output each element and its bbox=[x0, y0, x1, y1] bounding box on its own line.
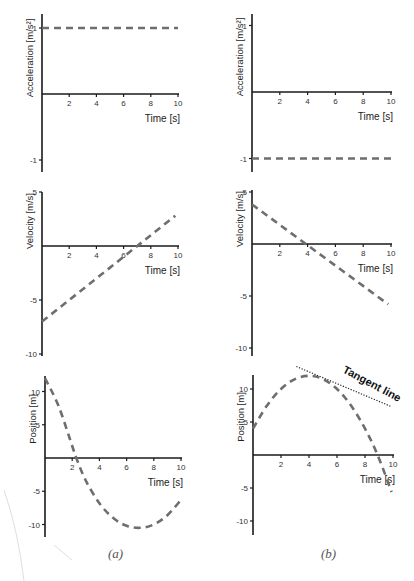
x-tick-label: 8 bbox=[149, 99, 154, 108]
y-axis-label: Acceleration [m/s²] bbox=[24, 19, 35, 98]
x-tick-label: 6 bbox=[124, 463, 129, 472]
x-tick-label: 2 bbox=[279, 460, 284, 469]
x-tick-label: 10 bbox=[389, 460, 398, 469]
x-tick-label: 6 bbox=[335, 460, 340, 469]
x-tick-label: 2 bbox=[70, 463, 75, 472]
y-tick-label: -10 bbox=[28, 521, 40, 530]
x-tick-label: 6 bbox=[121, 99, 126, 108]
x-tick-label: 2 bbox=[278, 249, 283, 258]
x-tick-label: 10 bbox=[174, 251, 183, 260]
x-tick-label: 4 bbox=[94, 99, 99, 108]
data-curve bbox=[252, 204, 388, 304]
plot-acceleration-b: 2468101-1Time [s]Acceleration [m/s²] bbox=[234, 14, 396, 172]
x-axis-label: Time [s] bbox=[145, 265, 180, 276]
x-tick-label: 2 bbox=[67, 251, 72, 260]
y-tick-label: -1 bbox=[240, 155, 248, 164]
tangent-line-label: Tangent line bbox=[341, 363, 403, 404]
y-tick-label: -10 bbox=[235, 344, 247, 353]
x-tick-label: 10 bbox=[387, 249, 396, 258]
x-tick-label: 8 bbox=[363, 460, 368, 469]
x-tick-label: 8 bbox=[152, 463, 157, 472]
x-axis-label: Time [s] bbox=[358, 263, 393, 274]
x-tick-label: 4 bbox=[305, 97, 310, 106]
y-axis-label: Acceleration [m/s²] bbox=[234, 18, 245, 97]
x-tick-label: 4 bbox=[94, 251, 99, 260]
y-axis-label: Velocity [m/s] bbox=[24, 193, 35, 249]
x-axis-label: Time [s] bbox=[360, 474, 395, 485]
scan-artifact bbox=[54, 545, 72, 560]
y-tick-label: -5 bbox=[241, 484, 249, 493]
panel-label-b: (b) bbox=[321, 546, 336, 561]
x-tick-label: 10 bbox=[177, 463, 186, 472]
y-tick-label: -5 bbox=[33, 487, 41, 496]
y-tick-label: -5 bbox=[30, 296, 38, 305]
x-axis-label: Time [s] bbox=[145, 113, 180, 124]
kinematics-figure: 2468101-1Time [s]Acceleration [m/s²]2468… bbox=[0, 0, 414, 581]
data-curve bbox=[45, 378, 181, 528]
scan-artifact bbox=[4, 490, 24, 581]
x-tick-label: 2 bbox=[278, 97, 283, 106]
x-tick-label: 8 bbox=[361, 249, 366, 258]
y-tick-label: -10 bbox=[236, 517, 248, 526]
plot-grid: 2468101-1Time [s]Acceleration [m/s²]2468… bbox=[24, 14, 403, 537]
x-tick-label: 10 bbox=[387, 97, 396, 106]
y-axis-label: Position [m] bbox=[235, 392, 246, 442]
y-tick-label: -10 bbox=[25, 350, 37, 359]
x-tick-label: 2 bbox=[67, 99, 72, 108]
plot-velocity-a: 2468105-5-10Time [s]Velocity [m/s] bbox=[24, 188, 183, 359]
y-tick-label: -5 bbox=[240, 292, 248, 301]
x-axis-label: Time [s] bbox=[148, 477, 183, 488]
y-axis-label: Velocity [m/s] bbox=[234, 191, 245, 247]
panel-label-a: (a) bbox=[108, 546, 123, 561]
x-tick-label: 10 bbox=[174, 99, 183, 108]
y-axis-label: Position [m] bbox=[27, 394, 38, 444]
x-axis-label: Time [s] bbox=[358, 111, 393, 122]
plot-velocity-b: 2468105-5-10Time [s]Velocity [m/s] bbox=[234, 188, 396, 356]
x-tick-label: 4 bbox=[305, 249, 310, 258]
plot-position-b: 246810105-5-10Time [s]Position [m]Tangen… bbox=[235, 363, 403, 535]
x-tick-label: 6 bbox=[333, 97, 338, 106]
plot-acceleration-a: 2468101-1Time [s]Acceleration [m/s²] bbox=[24, 14, 183, 172]
x-tick-label: 8 bbox=[149, 251, 154, 260]
x-tick-label: 6 bbox=[333, 249, 338, 258]
x-tick-label: 4 bbox=[307, 460, 312, 469]
y-tick-label: -1 bbox=[30, 156, 38, 165]
plot-position-a: 246810105-5-10Time [s]Position [m] bbox=[27, 376, 186, 537]
x-tick-label: 8 bbox=[361, 97, 366, 106]
x-tick-label: 4 bbox=[97, 463, 102, 472]
